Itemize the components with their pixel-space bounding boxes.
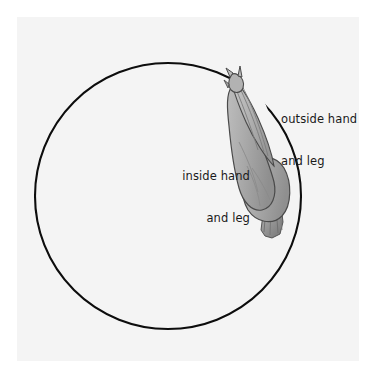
label-inside-line-2: and leg: [150, 211, 250, 225]
horse-ear-right: [238, 66, 242, 77]
label-inside-line-1: inside hand: [150, 169, 250, 183]
label-outside-hand-and-leg: outside hand and leg: [281, 84, 357, 196]
label-inside-hand-and-leg: inside hand and leg: [150, 141, 250, 253]
diagram-canvas: outside hand and leg inside hand and leg: [0, 0, 377, 378]
horse-muzzle: [224, 80, 229, 88]
label-outside-line-1: outside hand: [281, 112, 357, 126]
label-outside-line-2: and leg: [281, 154, 357, 168]
circle-track-foreground: [282, 231, 291, 288]
